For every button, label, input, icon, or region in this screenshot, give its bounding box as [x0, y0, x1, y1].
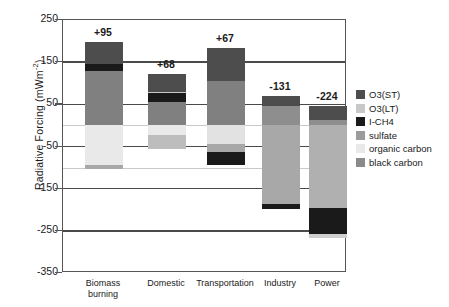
bar-segment-organic-carbon [85, 125, 123, 165]
y-axis-tick-mark [55, 188, 62, 189]
bar-power[interactable] [309, 20, 347, 273]
legend-label: black carbon [369, 158, 423, 167]
bar-segment-i-ch4 [207, 152, 245, 166]
bar-value-label: -224 [297, 90, 357, 102]
legend-swatch-icon [356, 144, 365, 153]
legend-label: sulfate [369, 131, 397, 140]
chart-figure: Radiative Forcing (mWm-2) 25015050-50-15… [0, 0, 449, 307]
y-axis-tick-label: 50 [18, 97, 58, 107]
legend-swatch-icon [356, 90, 365, 99]
bar-value-label: +68 [136, 58, 196, 70]
bar-segment-sulfate [85, 165, 123, 168]
x-axis-category-label-line2: burning [61, 289, 145, 300]
bar-segment-organic-carbon [207, 125, 245, 144]
bar-segment-o3-st- [207, 48, 245, 80]
bar-segment-sulfate [262, 125, 300, 203]
bar-segment-o3-lt- [148, 92, 186, 94]
bar-segment-o3-st- [85, 42, 123, 64]
legend-item[interactable]: organic carbon [356, 142, 432, 156]
legend-item[interactable]: sulfate [356, 129, 432, 143]
y-axis-tick-mark [55, 230, 62, 231]
bar-industry[interactable] [262, 20, 300, 273]
y-axis-tick-label: -150 [18, 182, 58, 192]
legend-label: O3(ST) [369, 90, 400, 99]
legend-item[interactable]: O3(ST) [356, 88, 432, 102]
bar-segment-i-ch4 [85, 64, 123, 71]
bar-segment-i-ch4 [309, 208, 347, 234]
y-axis-title-base: Radiative Forcing (mWm [33, 70, 45, 190]
legend-swatch-icon [356, 104, 365, 113]
bar-value-label: +95 [73, 26, 133, 38]
legend-swatch-icon [356, 131, 365, 140]
bar-segment-sulfate [309, 125, 347, 208]
legend-label: organic carbon [369, 144, 432, 153]
y-axis-tick-label: -350 [18, 266, 58, 276]
y-axis-tick-label: 250 [18, 13, 58, 23]
bar-segment-o3-st- [148, 74, 186, 92]
bar-segment-black-carbon [207, 81, 245, 126]
bar-segment-sulfate [148, 135, 186, 149]
bar-segment-i-ch4 [148, 93, 186, 102]
y-axis-tick-label: -50 [18, 140, 58, 150]
bar-segment-sulfate [207, 144, 245, 151]
y-axis-tick-mark [55, 19, 62, 20]
legend-label: I-CH4 [369, 117, 394, 126]
y-axis-tick-label: 150 [18, 55, 58, 65]
bar-biomass-burning[interactable] [85, 20, 123, 273]
bar-transportation[interactable] [207, 20, 245, 273]
y-axis-tick-mark [55, 103, 62, 104]
bar-value-label: +67 [195, 32, 255, 44]
legend-swatch-icon [356, 117, 365, 126]
x-axis-category-label: Power [285, 278, 369, 289]
bar-segment-o3-st- [309, 106, 347, 120]
y-axis-tick-mark [55, 61, 62, 62]
bar-segment-i-ch4 [262, 204, 300, 209]
x-axis-category-label-line1: Power [285, 278, 369, 289]
y-axis-tick-label: -250 [18, 224, 58, 234]
bar-segment-black-carbon [148, 102, 186, 125]
legend-item[interactable]: black carbon [356, 156, 432, 170]
bar-segment-black-carbon [262, 106, 300, 126]
bar-segment-organic-carbon [309, 234, 347, 238]
legend-item[interactable]: O3(LT) [356, 102, 432, 116]
bar-segment-organic-carbon [148, 125, 186, 134]
bar-segment-black-carbon [85, 71, 123, 125]
plot-area [62, 19, 346, 272]
legend-label: O3(LT) [369, 104, 398, 113]
legend: O3(ST)O3(LT)I-CH4sulfateorganic carbonbl… [356, 88, 432, 169]
y-axis-tick-mark [55, 146, 62, 147]
bar-segment-o3-st- [262, 96, 300, 106]
legend-item[interactable]: I-CH4 [356, 115, 432, 129]
y-axis-tick-mark [55, 272, 62, 273]
legend-swatch-icon [356, 158, 365, 167]
